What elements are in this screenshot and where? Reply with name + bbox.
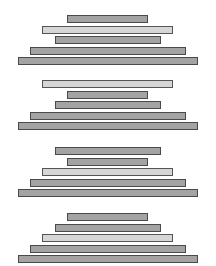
bar [67, 15, 148, 23]
bar [30, 179, 186, 187]
bar [18, 122, 198, 130]
bar [30, 245, 186, 253]
bar [55, 147, 161, 155]
bar [55, 224, 161, 232]
highlighted-bar [42, 26, 173, 34]
highlighted-bar [42, 234, 173, 242]
bar [18, 57, 198, 65]
bar [18, 255, 198, 263]
bar [67, 158, 148, 166]
bar [55, 36, 161, 44]
bar [67, 91, 148, 99]
highlighted-bar [42, 168, 173, 176]
bar [30, 47, 186, 55]
bar [67, 213, 148, 221]
highlighted-bar [42, 80, 173, 88]
bar [18, 189, 198, 197]
bar [55, 101, 161, 109]
bar [30, 112, 186, 120]
